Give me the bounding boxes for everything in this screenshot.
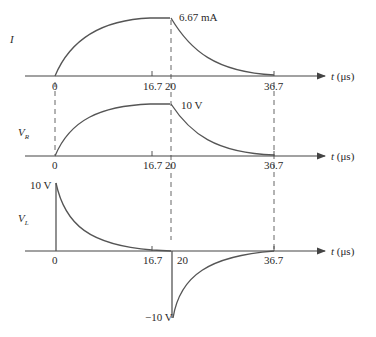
- peak-label: 10 V: [181, 99, 203, 111]
- peak-label: 10 V: [30, 179, 52, 191]
- x-axis-label: t (μs): [331, 150, 355, 163]
- tick-label-0: 0: [52, 159, 58, 171]
- tick-label-36-7: 36.7: [264, 254, 284, 266]
- tick-label-16-7: 16.7: [143, 80, 163, 92]
- tick-label-36-7: 36.7: [264, 80, 284, 92]
- tick-label-36-7: 36.7: [264, 159, 284, 171]
- x-axis-label: t (μs): [331, 70, 355, 83]
- y-label-current: I: [9, 33, 15, 45]
- x-axis-label: t (μs): [331, 245, 355, 258]
- tick-label-20: 20: [165, 80, 177, 92]
- tick-label-16-7: 16.7: [143, 254, 163, 266]
- tick-label-20: 20: [177, 254, 189, 266]
- tick-label-20: 20: [165, 159, 177, 171]
- y-label-vl: VL: [18, 212, 29, 227]
- rl-waveform-diagram: I 6.67 mA 0 16.7 20 36.7 t (μs) VR 10 V …: [0, 0, 376, 337]
- tick-label-0: 0: [52, 80, 58, 92]
- min-label: −10 V: [145, 311, 173, 323]
- peak-label: 6.67 mA: [179, 11, 218, 23]
- recovery-curve-negative: [173, 251, 274, 318]
- plot-current: I 6.67 mA 0 16.7 20 36.7 t (μs): [9, 11, 355, 92]
- decay-curve: [171, 18, 274, 75]
- rise-curve: [55, 104, 170, 156]
- diagram-canvas: I 6.67 mA 0 16.7 20 36.7 t (μs) VR 10 V …: [0, 0, 376, 337]
- tick-label-0: 0: [52, 254, 58, 266]
- decay-curve-positive: [56, 183, 171, 251]
- decay-curve: [171, 104, 274, 155]
- tick-label-16-7: 16.7: [143, 159, 163, 171]
- y-label-vr: VR: [18, 126, 30, 141]
- rise-curve: [55, 18, 170, 76]
- plot-inductor-voltage: VL 10 V −10 V 0 16.7 20 36.7 t (μs): [18, 179, 355, 323]
- plot-resistor-voltage: VR 10 V 0 16.7 20 36.7 t (μs): [18, 99, 355, 171]
